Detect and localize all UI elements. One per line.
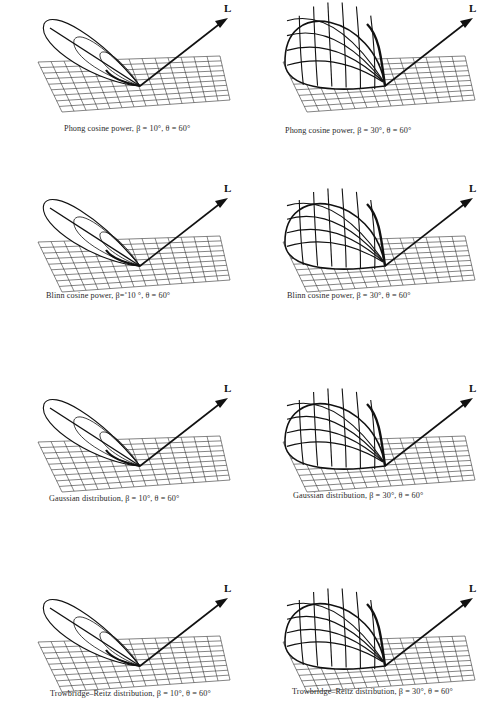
figure-panel-tr-30: L Trowbridge–Reitz distribution, β = 30°… (265, 580, 481, 710)
panel-caption: Phong cosine power, β = 10°, θ = 60° (64, 124, 190, 133)
lobe-diagram: L (20, 0, 250, 130)
light-label: L (224, 382, 231, 394)
light-label: L (224, 2, 231, 14)
light-label: L (469, 182, 476, 194)
specular-lobe-wide (285, 188, 385, 269)
light-label: L (469, 382, 476, 394)
panel-caption: Trowbridge–Reitz distribution, β = 30°, … (292, 687, 453, 696)
lobe-diagram: L (20, 380, 250, 510)
light-label: L (224, 582, 231, 594)
panel-caption: Trowbridge–Reitz distribution, β = 10°, … (50, 689, 211, 698)
light-label: L (469, 2, 476, 14)
panel-caption: Blinn cosine power, β=˚10 °, θ = 60° (46, 291, 170, 300)
figure-panel-gaussian-30: L Gaussian distribution, β = 30°, θ = 60… (265, 380, 481, 530)
figure-panel-blinn-30: L Blinn cosine power, β = 30°, θ = 60° (265, 180, 481, 330)
figure-panel-phong-10: L Phong cosine power, β = 10°, θ = 60° (20, 0, 250, 150)
panel-caption: Gaussian distribution, β = 10°, θ = 60° (49, 494, 179, 503)
panel-caption: Gaussian distribution, β = 30°, θ = 60° (293, 491, 423, 500)
lobe-diagram: L (265, 0, 481, 130)
light-label: L (224, 182, 231, 194)
figure-panel-phong-30: L Phong cosine power, β = 30°, θ = 60° (265, 0, 481, 150)
light-label: L (469, 582, 476, 594)
specular-lobe-dome (285, 2, 385, 89)
specular-lobe-wide (285, 588, 385, 669)
figure-panel-tr-10: L Trowbridge–Reitz distribution, β = 10°… (20, 580, 250, 710)
figure-panel-gaussian-10: L Gaussian distribution, β = 10°, θ = 60… (20, 380, 250, 530)
figure-panel-blinn-10: L Blinn cosine power, β=˚10 °, θ = 60° (20, 180, 250, 330)
panel-caption: Phong cosine power, β = 30°, θ = 60° (285, 126, 411, 135)
panel-caption: Blinn cosine power, β = 30°, θ = 60° (287, 291, 411, 300)
specular-lobe-wide (285, 388, 385, 469)
